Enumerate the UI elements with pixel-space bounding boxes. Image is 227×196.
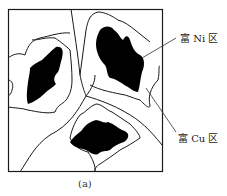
ni-rich-region-top-right	[96, 27, 144, 92]
ni-rich-region-bottom	[70, 120, 128, 155]
leader-line-ni	[142, 38, 176, 58]
label-ni-rich: 富 Ni 区	[180, 30, 218, 45]
leader-line-cu	[146, 88, 176, 132]
ni-rich-region-left	[27, 47, 63, 104]
figure-caption: (a)	[78, 178, 92, 189]
label-cu-rich: 富 Cu 区	[178, 130, 218, 145]
